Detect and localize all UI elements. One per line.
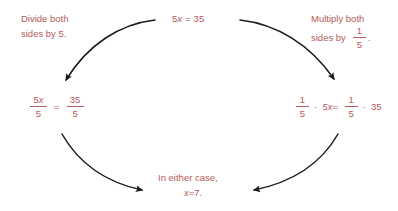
label-multiply-line2: sides by	[311, 30, 346, 45]
conclusion-line1: In either case,	[158, 170, 218, 185]
label-multiply-fraction-numerator: 1	[355, 26, 364, 36]
label-multiply-line2-row: sides by 1 5 .	[311, 26, 371, 50]
label-multiply-both-sides: Multiply both sides by 1 5 .	[311, 11, 371, 50]
eq-right-rhs-numerator: 1	[347, 95, 356, 105]
label-divide-line1: Divide both	[21, 11, 69, 26]
conclusion-line2: x=7.	[158, 185, 218, 200]
eq-right-fraction-rhs: 1 5	[345, 95, 358, 119]
eq-right-right-term: 35	[371, 101, 382, 112]
eq-right-rhs-denominator: 5	[347, 109, 356, 119]
eq-left-lhs-denominator: 5	[34, 109, 43, 119]
eq-left-rhs-numerator: 35	[68, 95, 83, 105]
eq-top-equals: =	[182, 13, 194, 24]
equation-top: 5x = 35	[172, 13, 204, 24]
eq-left-fraction-lhs: 5x 5	[30, 95, 47, 119]
eq-left-equals: =	[52, 101, 62, 112]
eq-left-fraction-rhs: 35 5	[67, 95, 84, 119]
arrow-top-left	[66, 20, 155, 80]
label-divide-both-sides: Divide both sides by 5.	[21, 11, 69, 41]
eq-left-lhs-num-var: x	[39, 94, 44, 105]
eq-top-result: 35	[194, 13, 205, 24]
eq-left-lhs-numerator: 5x	[31, 95, 45, 105]
arrow-bottom-left	[62, 134, 142, 190]
label-conclusion: In either case, x=7.	[158, 170, 218, 200]
conclusion-value: 7.	[194, 187, 202, 198]
eq-right-lhs-denominator: 5	[298, 109, 307, 119]
equation-right: 1 5 · 5x= 1 5 · 35	[296, 95, 382, 119]
eq-right-dot-2: ·	[362, 101, 367, 112]
label-divide-line2: sides by 5.	[21, 26, 69, 41]
eq-left-rhs-denominator: 5	[70, 109, 79, 119]
eq-right-dot-1: ·	[313, 101, 318, 112]
equation-left: 5x 5 = 35 5	[30, 95, 84, 119]
eq-right-left-term: 5x=	[322, 101, 338, 112]
diagram-canvas: Divide both sides by 5. 5x = 35 Multiply…	[0, 0, 398, 211]
label-multiply-line1: Multiply both	[311, 11, 371, 26]
label-multiply-fraction: 1 5	[353, 26, 366, 50]
arrow-bottom-right	[254, 134, 338, 190]
label-multiply-fraction-denominator: 5	[355, 40, 364, 50]
eq-right-fraction-lhs: 1 5	[296, 95, 309, 119]
label-multiply-period: .	[368, 30, 371, 45]
eq-right-lhs-numerator: 1	[298, 95, 307, 105]
